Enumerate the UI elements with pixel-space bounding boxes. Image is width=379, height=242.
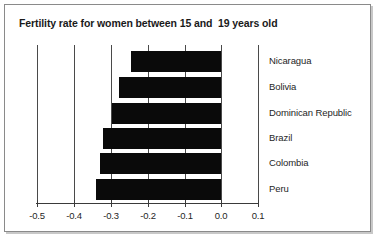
- x-tick-6: [258, 200, 259, 207]
- x-tick-label-1: -0.4: [59, 210, 89, 221]
- bar-dominican-republic: [112, 103, 221, 124]
- x-tick-1: [74, 200, 75, 207]
- category-label-nicaragua: Nicaragua: [269, 55, 311, 66]
- bar-colombia: [100, 153, 221, 174]
- bar-row: [5, 102, 258, 125]
- bar-row: [5, 50, 258, 73]
- category-label-bolivia: Bolivia: [269, 81, 296, 92]
- chart-frame: Fertility rate for women between 15 and …: [4, 4, 371, 232]
- bar-brazil: [103, 128, 221, 149]
- x-tick-label-5: 0.0: [206, 210, 236, 221]
- bar-peru: [96, 179, 221, 200]
- category-label-dominican-republic: Dominican Republic: [269, 107, 352, 118]
- x-tick-4: [185, 200, 186, 207]
- category-label-peru: Peru: [269, 183, 289, 194]
- x-tick-label-3: -0.2: [133, 210, 163, 221]
- x-tick-0: [37, 200, 38, 207]
- bar-bolivia: [119, 77, 221, 98]
- x-tick-5: [221, 200, 222, 207]
- category-label-brazil: Brazil: [269, 132, 292, 143]
- x-tick-label-0: -0.5: [22, 210, 52, 221]
- bar-row: [5, 152, 258, 175]
- x-tick-3: [148, 200, 149, 207]
- bar-nicaragua: [131, 51, 221, 72]
- x-axis-line: [36, 203, 258, 204]
- x-tick-2: [111, 200, 112, 207]
- bar-row: [5, 178, 258, 201]
- x-tick-label-6: 0.1: [243, 210, 273, 221]
- plot-area: Nicaragua Bolivia Dominican Republic Bra…: [5, 5, 371, 232]
- category-axis-divider: [258, 45, 259, 200]
- bar-row: [5, 76, 258, 99]
- x-tick-label-4: -0.1: [170, 210, 200, 221]
- bar-row: [5, 127, 258, 150]
- x-tick-label-2: -0.3: [96, 210, 126, 221]
- category-label-colombia: Colombia: [269, 157, 308, 168]
